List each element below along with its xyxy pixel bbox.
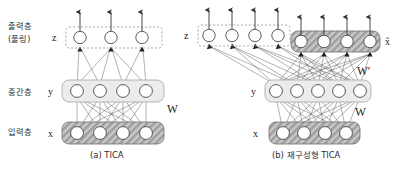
row-label-hidden: 중간층 bbox=[8, 87, 32, 97]
var-label-b-z: z bbox=[184, 30, 189, 41]
tica-architecture-diagram: 출력층 (풀링) 중간층 입력층 bbox=[0, 0, 404, 170]
weight-label-b-W: W bbox=[355, 106, 366, 118]
node-b-z-1 bbox=[203, 29, 215, 41]
node-b-x-3 bbox=[319, 127, 332, 140]
node-b-z-3 bbox=[249, 29, 261, 41]
node-b-x-2 bbox=[298, 127, 311, 140]
row-label-input: 입력층 bbox=[8, 127, 32, 137]
node-b-xhat-3 bbox=[341, 35, 353, 47]
panel-b-layer-hidden bbox=[265, 80, 371, 102]
node-b-y-1 bbox=[270, 85, 283, 98]
panel-b-layer-input bbox=[269, 122, 360, 144]
var-label-b-xhat: x̂ bbox=[385, 36, 390, 47]
var-label-a-y: y bbox=[48, 86, 53, 97]
weight-label-a-W: W bbox=[167, 103, 178, 115]
node-b-xhat-4 bbox=[364, 35, 376, 47]
caption-panel-b: (b) 재구성형 TICA bbox=[272, 150, 341, 160]
node-a-x-3 bbox=[117, 127, 130, 140]
node-a-x-1 bbox=[71, 127, 84, 140]
var-label-b-x: x bbox=[253, 128, 258, 139]
node-a-x-2 bbox=[94, 127, 107, 140]
node-a-z-3 bbox=[136, 31, 148, 43]
weight-label-b-Wprime: W′ bbox=[357, 65, 370, 77]
panel-a-output-arrows bbox=[80, 12, 142, 31]
node-a-y-4 bbox=[140, 85, 153, 98]
row-label-output-line1: 출력층 bbox=[8, 21, 32, 31]
node-a-y-3 bbox=[117, 85, 130, 98]
row-label-output: 출력층 (풀링) bbox=[8, 21, 32, 44]
node-a-z-2 bbox=[105, 31, 117, 43]
panel-a-arrowtips-z bbox=[77, 47, 144, 52]
panel-a-layer-input bbox=[62, 122, 164, 144]
node-b-y-4 bbox=[333, 85, 346, 98]
node-a-z-1 bbox=[74, 31, 86, 43]
node-b-x-4 bbox=[340, 127, 353, 140]
node-b-z-2 bbox=[226, 29, 238, 41]
var-label-b-y: y bbox=[251, 86, 256, 97]
node-b-xhat-1 bbox=[295, 35, 307, 47]
node-b-xhat-2 bbox=[318, 35, 330, 47]
node-b-x-1 bbox=[277, 127, 290, 140]
var-label-a-x: x bbox=[48, 128, 53, 139]
node-a-y-2 bbox=[94, 85, 107, 98]
node-a-y-1 bbox=[71, 85, 84, 98]
node-b-y-2 bbox=[291, 85, 304, 98]
panel-a-layer-hidden bbox=[62, 80, 164, 102]
panel-b: x y x̂ bbox=[184, 10, 390, 160]
panel-a: x y z bbox=[48, 12, 178, 160]
panel-b-layer-output bbox=[198, 25, 290, 46]
row-label-output-line2: (풀링) bbox=[8, 34, 30, 44]
figure-root: 출력층 (풀링) 중간층 입력층 bbox=[0, 0, 404, 170]
node-b-y-5 bbox=[354, 85, 367, 98]
caption-panel-a: (a) TICA bbox=[90, 150, 124, 160]
var-label-a-z: z bbox=[52, 32, 57, 43]
node-b-z-4 bbox=[272, 29, 284, 41]
node-b-y-3 bbox=[312, 85, 325, 98]
panel-b-layer-xhat bbox=[291, 31, 380, 52]
panel-b-output-arrows bbox=[209, 10, 278, 29]
node-a-x-4 bbox=[140, 127, 153, 140]
